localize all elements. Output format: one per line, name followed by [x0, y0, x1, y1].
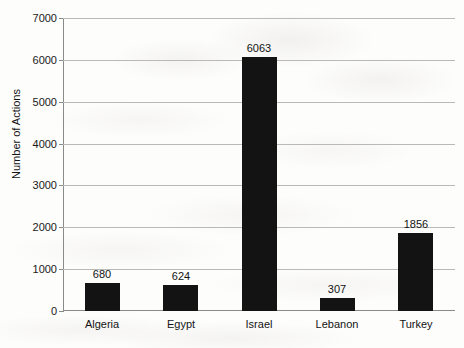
y-axis-title: Number of Actions [10, 64, 22, 204]
bar-israel[interactable] [242, 57, 277, 311]
bar-value-algeria: 680 [72, 269, 132, 280]
category-label-lebanon: Lebanon [292, 318, 382, 330]
y-tick-label: 1000 [15, 264, 57, 275]
y-tick-label: 7000 [15, 13, 57, 24]
y-tick-label: 0 [15, 306, 57, 317]
chart-figure: 7000 6000 5000 4000 3000 2000 1000 0 Num… [0, 0, 464, 348]
category-label-israel: Israel [214, 318, 304, 330]
plot-area: 680 624 6063 307 1856 [63, 18, 455, 311]
category-label-egypt: Egypt [136, 318, 226, 330]
category-label-turkey: Turkey [371, 318, 461, 330]
bar-value-israel: 6063 [229, 43, 289, 54]
category-label-algeria: Algeria [57, 318, 147, 330]
x-axis-category-labels: Algeria Egypt Israel Lebanon Turkey [63, 318, 455, 336]
gridline-7000 [63, 18, 455, 19]
bar-algeria[interactable] [85, 283, 120, 311]
bar-egypt[interactable] [163, 285, 198, 311]
bar-value-egypt: 624 [151, 271, 211, 282]
bar-value-turkey: 1856 [386, 219, 446, 230]
bar-lebanon[interactable] [320, 298, 355, 311]
bar-value-lebanon: 307 [307, 284, 367, 295]
bar-turkey[interactable] [398, 233, 433, 311]
y-axis-tick-labels: 7000 6000 5000 4000 3000 2000 1000 0 [0, 0, 57, 348]
y-tick-label: 2000 [15, 222, 57, 233]
